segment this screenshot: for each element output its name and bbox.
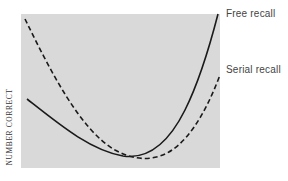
free-recall-line (27, 14, 218, 157)
chart-lines (0, 0, 288, 181)
serial-recall-label: Serial recall (226, 64, 281, 75)
y-axis-label: NUMBER CORRECT (5, 89, 14, 166)
free-recall-label: Free recall (226, 8, 275, 19)
serial-recall-line (25, 19, 220, 158)
